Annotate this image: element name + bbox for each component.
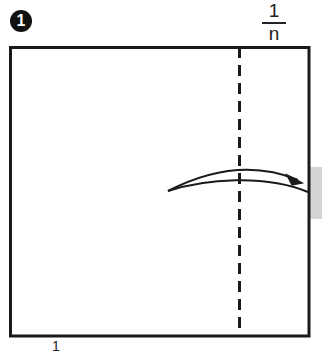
arrow-head-icon — [287, 175, 302, 185]
paper-square — [11, 48, 310, 337]
paper-tab — [309, 167, 322, 219]
bottom-cut-label: 1 — [52, 338, 60, 354]
